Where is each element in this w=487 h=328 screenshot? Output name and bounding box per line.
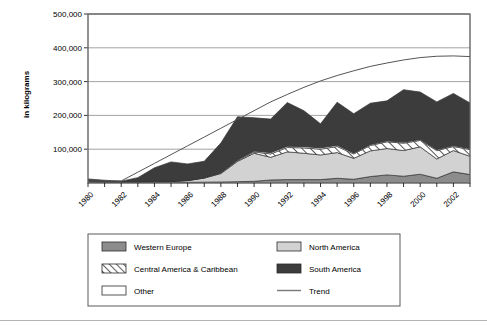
y-tick-label: 100,000 <box>53 145 82 154</box>
legend-label-north-america: North America <box>309 243 360 252</box>
chart-figure: in kilograms 100,000200,000300,000400,00… <box>0 0 487 328</box>
y-axis-title-text: in kilograms <box>22 70 31 118</box>
legend-label-western-europe: Western Europe <box>134 243 192 252</box>
legend-item-north-america[interactable]: North America <box>277 242 360 252</box>
legend-item-western-europe[interactable]: Western Europe <box>102 242 192 252</box>
legend-swatch-north-america <box>277 242 301 251</box>
stacked-area-chart: in kilograms 100,000200,000300,000400,00… <box>0 0 487 328</box>
y-tick-label: 500,000 <box>53 10 82 19</box>
legend-label-trend: Trend <box>309 287 330 296</box>
chart-legend: Western Europe Central America & Caribbe… <box>88 234 400 306</box>
y-tick-label: 300,000 <box>53 78 82 87</box>
legend-item-central-america[interactable]: Central America & Caribbean <box>102 264 238 274</box>
y-axis-title: in kilograms <box>22 70 31 118</box>
legend-label-central-america: Central America & Caribbean <box>134 265 238 274</box>
legend-swatch-western-europe <box>102 242 126 251</box>
y-tick-label: 200,000 <box>53 111 82 120</box>
legend-swatch-central-america <box>102 264 126 273</box>
legend-label-south-america: South America <box>309 265 362 274</box>
legend-swatch-south-america <box>277 264 301 273</box>
legend-item-south-america[interactable]: South America <box>277 264 362 274</box>
legend-label-other: Other <box>134 287 154 296</box>
y-tick-label: 400,000 <box>53 44 82 53</box>
legend-swatch-other <box>102 286 126 295</box>
